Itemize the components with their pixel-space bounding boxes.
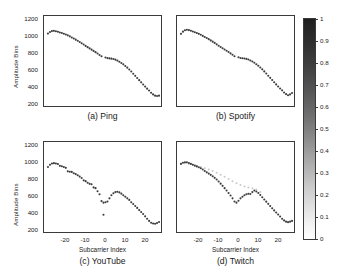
panel-d-xtick-0: 0: [230, 236, 246, 243]
panel-c-ytick-600: 600: [14, 192, 38, 199]
panel-d-plot-area: [176, 141, 295, 233]
panel-a-ytick-600: 600: [14, 66, 38, 73]
panel-c-xtick--20: -20: [57, 236, 73, 243]
panel-a-caption: (a) Ping: [43, 111, 162, 121]
colorbar-tick-label: 0.9: [320, 37, 329, 44]
figure-multi-panel-scatter: Amplitude Bins 1200 1000 800 600 400 200…: [0, 0, 341, 279]
panel-c-scatter-svg: [44, 142, 161, 232]
panel-a-ytick-1000: 1000: [14, 32, 38, 39]
colorbar-tick-label: 0.5: [320, 125, 329, 132]
colorbar-tick-label: 0.1: [320, 213, 329, 220]
colorbar-gradient: [303, 18, 316, 240]
colorbar-tickmark: [316, 173, 318, 174]
colorbar-tick-label: 0.6: [320, 103, 329, 110]
panel-a-ytick-200: 200: [14, 100, 38, 107]
panel-b-scatter-svg: [177, 16, 294, 106]
panel-c-ytick-1000: 1000: [14, 158, 38, 165]
colorbar: 10.90.80.70.60.50.40.30.20.10: [303, 18, 341, 243]
colorbar-tick-label: 0.7: [320, 81, 329, 88]
panel-b-plot-area: [176, 15, 295, 107]
colorbar-tickmark: [316, 63, 318, 64]
panel-d-xtick-10: 10: [250, 236, 266, 243]
panel-d-xtick--10: -10: [210, 236, 226, 243]
panel-d-caption: (d) Twitch: [176, 256, 295, 266]
panel-c-xtick--10: -10: [77, 236, 93, 243]
colorbar-tickmark: [316, 85, 318, 86]
colorbar-tickmark: [316, 41, 318, 42]
panel-c-ytick-1200: 1200: [14, 141, 38, 148]
panel-c-ytick-800: 800: [14, 175, 38, 182]
colorbar-tickmark: [316, 19, 318, 20]
panel-b-caption: (b) Spotify: [176, 111, 295, 121]
panel-c-xtick-10: 10: [117, 236, 133, 243]
panel-c-caption: (c) YouTube: [43, 256, 162, 266]
panel-a-ytick-1200: 1200: [14, 15, 38, 22]
panel-c-xlabel: Subcarrier Index: [43, 246, 162, 253]
colorbar-tick-label: 0.2: [320, 191, 329, 198]
colorbar-tick-label: 0: [320, 235, 323, 242]
panel-c-xtick-0: 0: [97, 236, 113, 243]
colorbar-tickmark: [316, 129, 318, 130]
colorbar-tickmark: [316, 239, 318, 240]
colorbar-tick-label: 1: [320, 15, 323, 22]
panel-a-scatter-svg: [44, 16, 161, 106]
panel-a-plot-area: [43, 15, 162, 107]
colorbar-tickmark: [316, 195, 318, 196]
colorbar-tick-label: 0.4: [320, 147, 329, 154]
colorbar-tickmark: [316, 151, 318, 152]
panel-c-ytick-400: 400: [14, 209, 38, 216]
panel-c-plot-area: [43, 141, 162, 233]
colorbar-tickmark: [316, 217, 318, 218]
panel-c-ytick-200: 200: [14, 226, 38, 233]
colorbar-tickmark: [316, 107, 318, 108]
panel-a-ytick-400: 400: [14, 83, 38, 90]
panel-a-ytick-800: 800: [14, 49, 38, 56]
colorbar-tick-label: 0.3: [320, 169, 329, 176]
panel-d-scatter-svg: [177, 142, 294, 232]
panel-c-ylabel: Amplitude Bins: [12, 183, 19, 226]
panel-c-xtick-20: 20: [137, 236, 153, 243]
panel-d-xlabel: Subcarrier Index: [176, 246, 295, 253]
panel-d-xtick-20: 20: [270, 236, 286, 243]
colorbar-tick-label: 0.8: [320, 59, 329, 66]
panel-d-xtick--20: -20: [190, 236, 206, 243]
